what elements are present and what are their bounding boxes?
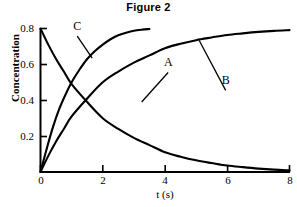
- x-tick-label-8: 8: [281, 174, 297, 186]
- leader-line-c: [77, 36, 92, 58]
- x-tick-label-4: 4: [156, 174, 174, 186]
- y-tick-label-0.2: 0.2: [8, 130, 34, 142]
- x-tick-label-6: 6: [219, 174, 237, 186]
- x-tick-label-2: 2: [94, 174, 112, 186]
- curve-label-a: A: [164, 55, 173, 70]
- x-axis-label: t (s): [120, 188, 210, 200]
- leader-line-a: [142, 72, 168, 102]
- figure-container: Figure 2 Concentration 0.8: [0, 0, 297, 207]
- curve-c: [41, 29, 150, 172]
- y-tick-label-0.8: 0.8: [8, 22, 34, 34]
- curve-a: [41, 29, 290, 171]
- y-tick-label-0.6: 0.6: [8, 58, 34, 70]
- curve-label-b: B: [222, 73, 230, 88]
- curve-b: [41, 30, 290, 172]
- x-tick-label-0: 0: [32, 174, 50, 186]
- curve-label-c: C: [73, 19, 81, 34]
- y-tick-label-0.4: 0.4: [8, 94, 34, 106]
